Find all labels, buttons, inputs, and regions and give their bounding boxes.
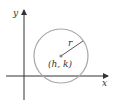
radius-label: r xyxy=(68,38,73,48)
center-point xyxy=(59,54,62,57)
y-axis-label: y xyxy=(12,8,19,18)
center-label: (h, k) xyxy=(48,59,72,69)
x-axis-label: x xyxy=(102,78,107,88)
circle-diagram: r (h, k) y x xyxy=(0,0,115,102)
diagram-canvas: r (h, k) y x xyxy=(0,0,115,102)
